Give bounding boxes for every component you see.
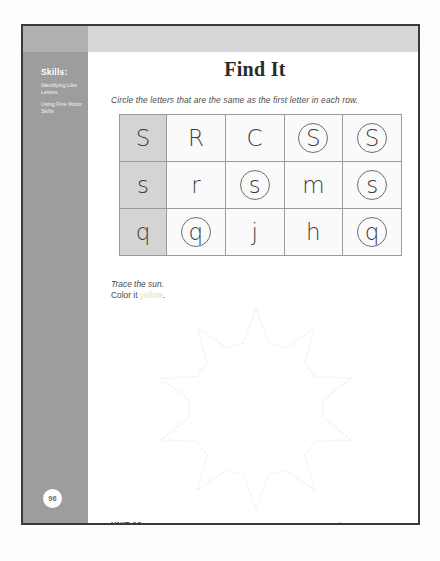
option-letter-glyph: m	[302, 174, 324, 197]
color-it-prefix: Color it	[111, 290, 140, 300]
letter-option-cell[interactable]: C	[226, 115, 285, 162]
scanned-page-background: Skills: Identifying Like Letters Using F…	[0, 0, 440, 561]
letter-option-cell[interactable]: S	[285, 115, 344, 162]
option-letter-glyph: C	[247, 127, 263, 150]
prompt-letter-glyph: s	[137, 174, 149, 197]
letter-option-cell[interactable]: h	[285, 209, 344, 256]
worksheet-page: Skills: Identifying Like Letters Using F…	[21, 24, 420, 525]
skill-item-1: Identifying Like Letters	[41, 82, 87, 96]
letter-grid: SRCSSsrsmsqqjhq	[119, 114, 402, 256]
prompt-letter-glyph: S	[136, 127, 151, 150]
copyright-credit: Spell & Write • EMC 4535 • ©2005 by Evan…	[266, 522, 408, 525]
option-letter-glyph: h	[306, 221, 321, 244]
prompt-letter-cell: q	[120, 209, 167, 256]
letter-option-cell[interactable]: j	[226, 209, 285, 256]
prompt-letter-cell: s	[120, 162, 167, 209]
letter-grid-row: SRCSS	[120, 115, 402, 162]
letter-option-cell[interactable]: S	[343, 115, 402, 162]
unit-label: UNIT 19	[111, 520, 142, 525]
letter-grid-row: qqjhq	[120, 209, 402, 256]
option-letter-glyph: j	[251, 221, 257, 244]
letter-option-cell[interactable]: q	[167, 209, 226, 256]
page-title: Find It	[88, 58, 420, 81]
worksheet-content: Find It Circle the letters that are the …	[88, 52, 420, 523]
sidebar-top-block	[23, 26, 88, 52]
option-letter-glyph: r	[191, 174, 200, 197]
trace-line-2: Color it yellow.	[111, 290, 165, 301]
sun-tracing-shape	[126, 304, 386, 514]
letter-option-cell[interactable]: r	[167, 162, 226, 209]
letter-option-cell[interactable]: s	[343, 162, 402, 209]
sun-outline-icon	[126, 304, 386, 514]
option-letter-glyph: S	[306, 127, 321, 150]
prompt-letter-glyph: q	[136, 221, 151, 244]
trace-instructions: Trace the sun. Color it yellow.	[111, 279, 165, 301]
letter-option-cell[interactable]: s	[226, 162, 285, 209]
option-letter-glyph: S	[365, 127, 380, 150]
skills-sidebar: Skills: Identifying Like Letters Using F…	[23, 26, 88, 523]
option-letter-glyph: s	[366, 174, 378, 197]
trace-line-1: Trace the sun.	[111, 279, 165, 290]
yellow-word: yellow	[140, 290, 163, 300]
prompt-letter-cell: S	[120, 115, 167, 162]
option-letter-glyph: R	[188, 127, 204, 150]
letter-grid-row: srsms	[120, 162, 402, 209]
letter-option-cell[interactable]: q	[343, 209, 402, 256]
option-letter-glyph: q	[189, 221, 204, 244]
letter-option-cell[interactable]: m	[285, 162, 344, 209]
letter-option-cell[interactable]: R	[167, 115, 226, 162]
skill-item-2: Using Fine Motor Skills	[41, 101, 87, 115]
page-number-badge: 96	[43, 489, 62, 508]
option-letter-glyph: q	[365, 221, 380, 244]
skills-heading: Skills:	[41, 67, 67, 77]
color-it-suffix: .	[163, 290, 165, 300]
option-letter-glyph: s	[249, 174, 261, 197]
instruction-text: Circle the letters that are the same as …	[111, 95, 358, 105]
